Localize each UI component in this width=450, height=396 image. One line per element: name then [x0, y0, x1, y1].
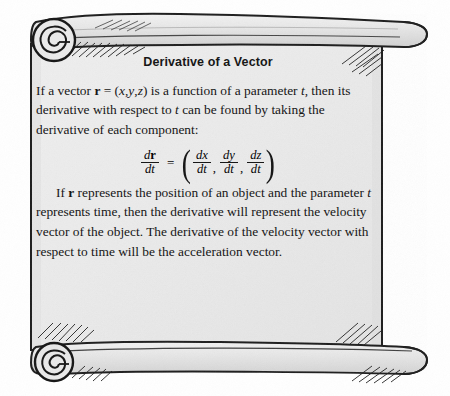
- para2-seg3: represents time, then the derivative wil…: [36, 204, 369, 258]
- paragraph-interpretation: If r represents the position of an objec…: [36, 183, 380, 262]
- scroll-illustration: Derivative of a Vector If a vector r = (…: [0, 0, 450, 396]
- parameter-symbol-t-3: t: [367, 185, 371, 200]
- document-content: Derivative of a Vector If a vector r = (…: [36, 56, 380, 312]
- page-title: Derivative of a Vector: [36, 56, 380, 70]
- term-1-denominator: dt: [221, 163, 237, 176]
- term-0-separator: ,: [212, 160, 219, 176]
- para1-seg3: ) is a function of a parameter: [143, 83, 301, 98]
- open-paren: (: [182, 149, 191, 177]
- para2-seg1: If: [56, 185, 68, 200]
- close-paren: ): [266, 149, 275, 177]
- lhs-denominator: dt: [142, 163, 158, 176]
- term-0-denominator: dt: [194, 163, 210, 176]
- lhs-numerator: dr: [141, 149, 159, 162]
- term-1-separator: ,: [239, 160, 246, 176]
- para2-seg2: represents the position of an object and…: [74, 185, 367, 200]
- formula-lhs-fraction: dr dt: [141, 149, 159, 176]
- formula-term-dy-dt: dy dt: [220, 149, 238, 176]
- equals-sign: =: [167, 155, 174, 171]
- para1-seg2: = (: [100, 83, 119, 98]
- formula-term-dx-dt: dx dt: [193, 149, 211, 176]
- term-1-numerator: dy: [220, 149, 238, 162]
- derivative-formula: dr dt = ( dx dt , dy dt , dz dt: [36, 149, 380, 177]
- term-2-denominator: dt: [248, 163, 264, 176]
- lhs-numerator-vector: r: [150, 148, 156, 162]
- term-0-numerator: dx: [193, 149, 211, 162]
- para1-seg1: If a vector: [36, 83, 94, 98]
- formula-term-dz-dt: dz dt: [247, 149, 264, 176]
- term-2-numerator: dz: [247, 149, 264, 162]
- paragraph-definition: If a vector r = (x,y,z) is a function of…: [36, 81, 380, 140]
